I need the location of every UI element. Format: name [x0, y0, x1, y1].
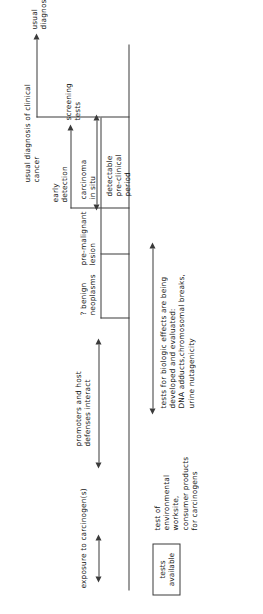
label-tests-available: tests available [157, 543, 175, 595]
label-usual-diagnosis-line2: diagnosis [38, 0, 47, 29]
label-tests-available-line2: available [166, 552, 175, 585]
axis-tick-carcinoma [100, 207, 129, 208]
label-preclinical-line3: period [122, 172, 131, 196]
label-preclinical-line1: detectable [104, 155, 113, 196]
label-screening-tests: screening tests [63, 83, 81, 120]
bracket-benign [100, 254, 101, 318]
bracket-premalignant [100, 208, 101, 254]
preclinical-period-arrowhead-left-icon [93, 204, 99, 210]
label-benign-line2: neoplasms [87, 274, 96, 315]
label-early-detection: early detection [50, 166, 68, 202]
axis-tick-clinical [100, 116, 129, 117]
exposure-arrow-line [98, 540, 99, 576]
label-detectable-preclinical-period: detectable pre-clinical period [104, 154, 132, 196]
figure-canvas: ? benign neoplasms pre-malignant lesion … [0, 0, 263, 614]
label-carcinogen-tests-line1: test of [152, 505, 161, 530]
label-carcinogen-tests-line2: environmental [161, 474, 170, 530]
bracket-carcinoma [100, 117, 101, 208]
label-premalignant-line1: pre-malignant [78, 211, 87, 265]
promoters-arrowhead-left-icon [95, 462, 101, 468]
screening-tests-arrowhead-icon [67, 124, 73, 130]
biologic-tests-arrowhead-left-icon [149, 408, 155, 414]
label-premalignant-line2: lesion [87, 242, 96, 265]
label-biologic-tests-line3: DNA adducts,chromosomal breaks, [176, 273, 185, 408]
label-promoters-line2: defenses interact [82, 379, 91, 446]
label-biologic-effect-tests: tests for biologic effects are being dev… [158, 273, 195, 408]
usual-diagnosis-arrowhead-icon [33, 33, 39, 39]
biologic-tests-arrow-line [152, 248, 153, 408]
label-usual-diagnosis: usual diagnosis [29, 0, 47, 29]
label-carcinoma-in-situ: carcinoma in situ [78, 159, 96, 199]
label-carcinogen-tests-line3: worksite, [170, 495, 179, 530]
label-early-detection-line2: detection [59, 166, 68, 202]
biologic-tests-arrowhead-right-icon [149, 242, 155, 248]
axis-tick-benign [100, 317, 129, 318]
promoters-arrow-line [98, 344, 99, 462]
label-benign-neoplasms: ? benign neoplasms [78, 274, 96, 315]
label-carcinogen-tests-line5: for carcinogens [189, 471, 198, 530]
preclinical-period-arrowhead-right-icon [93, 114, 99, 120]
label-promoters-host-defenses: promoters and host defenses interact [73, 371, 91, 446]
label-biologic-tests-line2: developed and evaluated: [167, 308, 176, 408]
label-biologic-tests-line1: tests for biologic effects are being [158, 276, 167, 408]
axis-tick-premalignant [100, 253, 129, 254]
label-carcinogen-tests-line4: consumer products [180, 456, 189, 530]
preclinical-period-arrow-line [96, 120, 97, 204]
promoters-arrowhead-right-icon [95, 338, 101, 344]
exposure-arrowhead-left-icon [95, 576, 101, 582]
label-promoters-line1: promoters and host [73, 371, 82, 446]
label-premalignant-lesion: pre-malignant lesion [78, 211, 96, 265]
label-carcinogen-tests: test of environmental worksite, consumer… [152, 456, 198, 530]
rotated-diagram-stage: ? benign neoplasms pre-malignant lesion … [0, 0, 263, 614]
label-preclinical-line2: pre-clinical [113, 154, 122, 196]
label-carcinoma-line1: carcinoma [78, 159, 87, 199]
usual-diagnosis-arrow-line [36, 39, 37, 117]
label-exposure-to-carcinogens: exposure to carcinogen(s) [78, 488, 87, 588]
label-clinical-diagnosis-line2: cancer [31, 156, 40, 182]
label-clinical-cancer-diagnosis: usual diagnosis of clinical cancer [22, 83, 40, 182]
usual-diagnosis-stem [36, 116, 100, 117]
label-carcinoma-line2: in situ [87, 175, 96, 199]
label-biologic-tests-line4: urine nutagenicity [186, 338, 195, 408]
exposure-arrowhead-right-icon [95, 534, 101, 540]
label-screening-tests-line1: screening [63, 83, 72, 120]
label-usual-diagnosis-line1: usual [29, 8, 38, 29]
label-early-detection-line1: early [50, 183, 59, 202]
label-clinical-diagnosis-line1: usual diagnosis of clinical [22, 83, 31, 182]
label-benign-line1: ? benign [78, 282, 87, 315]
screening-tests-arrow-line [70, 130, 71, 208]
label-tests-available-line1: tests [157, 560, 166, 578]
